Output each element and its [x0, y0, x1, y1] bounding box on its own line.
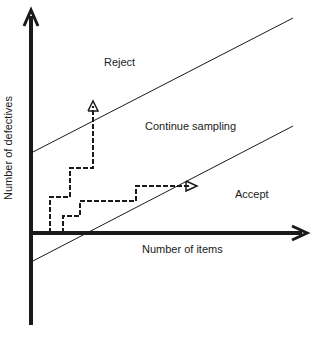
- y-axis-label: Number of defectives: [2, 93, 14, 203]
- x-axis-label: Number of items: [142, 243, 223, 255]
- reject-path: [50, 106, 93, 233]
- region-label-continue: Continue sampling: [145, 120, 236, 132]
- diagram-canvas: [0, 0, 311, 339]
- rejection-line: [31, 18, 293, 153]
- region-label-accept: Accept: [235, 188, 269, 200]
- region-label-reject: Reject: [104, 56, 135, 68]
- accept-path: [63, 186, 190, 233]
